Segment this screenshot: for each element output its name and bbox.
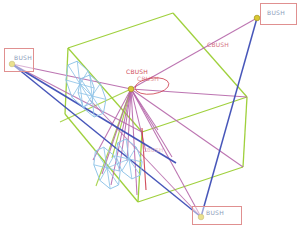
frame-edge <box>142 97 247 132</box>
rigid-link-line <box>201 18 257 217</box>
cbush-spring-line <box>131 89 201 217</box>
frame-edge <box>68 13 173 48</box>
selection-ellipse <box>134 76 170 97</box>
frame-edge <box>243 97 247 167</box>
cbush-spring-line <box>131 89 247 97</box>
bush-node[interactable] <box>254 15 260 21</box>
bush-annotation-box[interactable] <box>4 48 34 72</box>
wireframe-canvas[interactable] <box>0 0 300 228</box>
model-viewport: BUSH BUSH BUSH CBUSH CBUSH CBUSH CBUSH <box>0 0 300 228</box>
bush-node[interactable] <box>128 86 134 92</box>
frame-edge <box>173 13 247 97</box>
bush-annotation-box[interactable] <box>192 206 242 225</box>
cbush-spring-line <box>131 89 172 157</box>
cbush-spring-line <box>12 64 142 132</box>
rigid-link-line <box>12 64 201 217</box>
bush-annotation-box[interactable] <box>260 3 297 25</box>
